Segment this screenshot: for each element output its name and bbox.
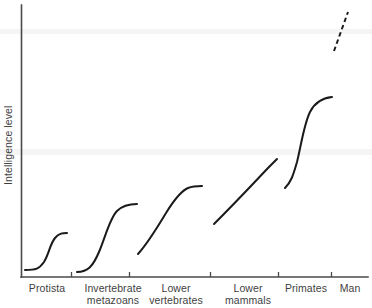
x-label-lower-vertebrates-line1: Lower xyxy=(161,282,191,294)
scan-band-middle xyxy=(0,149,372,155)
scan-band-upper xyxy=(0,29,372,34)
curve-protista xyxy=(25,233,67,270)
x-axis-labels: Protista Invertebrate metazoans Lower ve… xyxy=(29,282,361,306)
curve-lower-mammals xyxy=(214,159,277,224)
x-label-lower-vertebrates-line2: vertebrates xyxy=(149,294,203,306)
curve-lower-vertebrates xyxy=(138,186,202,254)
curve-invertebrate-metazoans xyxy=(77,204,137,272)
intelligence-level-chart: Intelligence level Protista Invertebrate… xyxy=(0,0,372,308)
scan-artifact-bands xyxy=(0,29,372,155)
x-label-lower-mammals-line1: Lower xyxy=(233,282,263,294)
x-label-invertebrate-metazoans-line1: Invertebrate xyxy=(84,282,141,294)
curve-group xyxy=(25,12,348,272)
x-label-protista-line1: Protista xyxy=(29,282,65,294)
y-axis-label: Intelligence level xyxy=(2,106,14,185)
curve-primates xyxy=(285,97,332,188)
x-label-invertebrate-metazoans-line2: metazoans xyxy=(87,294,139,306)
x-label-lower-mammals-line2: mammals xyxy=(225,294,271,306)
x-label-primates-line1: Primates xyxy=(285,282,327,294)
axes-group xyxy=(21,5,368,277)
x-label-man-line1: Man xyxy=(340,282,361,294)
chart-figure: Intelligence level Protista Invertebrate… xyxy=(0,0,372,308)
